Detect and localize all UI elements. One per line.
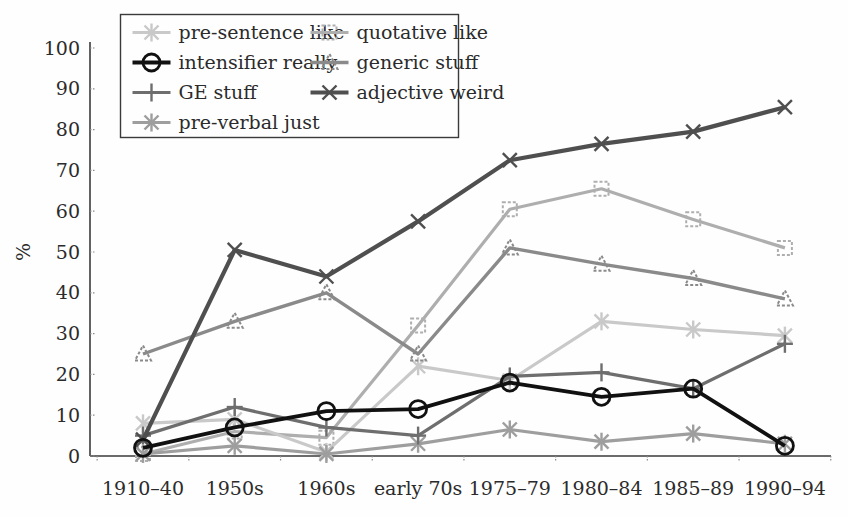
y-tick-label: 100 [44,37,80,59]
figure: 0102030405060708090100%1910–401950s1960s… [0,0,848,517]
y-tick-label: 10 [56,404,80,426]
legend: pre-sentence likeintensifier reallyGE st… [121,15,505,138]
y-tick-label: 70 [56,159,80,181]
legend-label: pre-verbal just [179,111,320,133]
legend-label: adjective weird [357,81,505,103]
legend-label: generic stuff [357,51,480,73]
x-tick-label: 1960s [297,477,355,499]
x-tick-label: 1990–94 [744,477,826,499]
y-tick-label: 50 [56,241,80,263]
y-tick-label: 20 [56,363,80,385]
y-tick-label: 30 [56,322,80,344]
y-tick-label: 60 [56,200,80,222]
y-tick-label: 80 [56,118,80,140]
series-generic-stuff [135,239,793,360]
y-tick-label: 90 [56,77,80,99]
x-tick-label: early 70s [374,477,462,499]
x-tick-label: 1985–89 [652,477,734,499]
y-tick-label: 0 [68,445,80,467]
x-tick-label: 1975–79 [469,477,551,499]
y-axis-title: % [12,243,34,261]
line-chart: 0102030405060708090100%1910–401950s1960s… [0,0,848,517]
legend-label: quotative like [357,21,488,43]
series-line [143,248,785,354]
x-tick-label: 1950s [206,477,264,499]
legend-label: GE stuff [179,81,259,103]
legend-item: GE stuff [133,81,259,103]
x-tick-label: 1980–84 [560,477,642,499]
x-tick-label: 1910–40 [102,477,184,499]
y-tick-label: 40 [56,281,80,303]
